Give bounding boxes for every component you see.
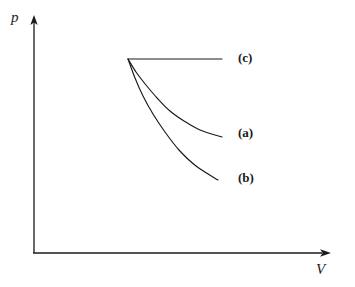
curve-b-adiabatic (128, 59, 218, 180)
curve-label-a: (a) (238, 126, 253, 139)
y-axis-label: p (11, 10, 19, 25)
curves-group (128, 59, 222, 180)
curve-label-b: (b) (238, 171, 254, 184)
plot-canvas (0, 0, 355, 287)
x-axis-label: V (316, 262, 325, 277)
curve-label-c: (c) (238, 51, 252, 64)
axes-group (30, 15, 331, 257)
pv-diagram-figure: p V (c) (a) (b) (0, 0, 355, 287)
curve-a-isothermal (128, 59, 222, 137)
